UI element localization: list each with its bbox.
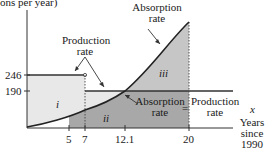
x-axis-symbol: x [250,104,255,115]
absorption-rate-label-top: Absorption rate [130,2,184,24]
x-tick-12: 12.1 [115,134,134,145]
production-rate-label-line2: rate [62,46,108,57]
production-rate-label-top: Production rate [62,35,108,57]
absorption-rate-label-mid: Absorption rate [134,96,186,118]
region-i-label: i [56,99,59,110]
absorption-mid-line2: rate [134,107,186,118]
production-right-line2: rate [191,107,239,118]
equals-sign: = [182,103,188,114]
x-title-line3: 1990 [236,139,267,150]
y-tick-246: 246 [5,70,22,81]
region-iii-label: iii [159,68,168,79]
y-axis-label: ons per year) [0,0,57,8]
x-tick-20: 20 [183,134,194,145]
absorption-rate-label-line2: rate [130,13,184,24]
y-tick-190: 190 [5,86,22,97]
region-ii-label: ii [103,113,109,124]
x-axis-title: Years since 1990 [236,117,267,150]
x-tick-7: 7 [82,134,88,145]
x-tick-5: 5 [66,134,72,145]
production-rate-label-right: Production rate [191,96,239,118]
